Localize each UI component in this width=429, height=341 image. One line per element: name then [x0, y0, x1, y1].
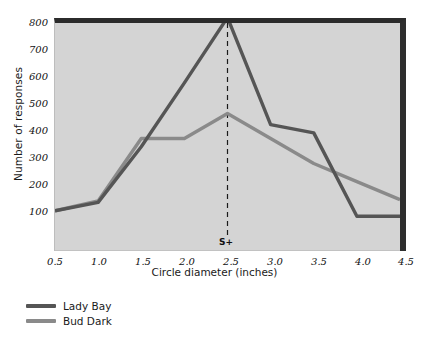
y-axis-tick-label: 300 [8, 152, 48, 163]
y-axis-tick-label: 100 [8, 206, 48, 217]
y-axis-tick-label: 800 [8, 17, 48, 28]
plot-area [54, 18, 406, 251]
legend-label: Bud Dark [63, 315, 112, 327]
y-axis-tick-label: 200 [8, 179, 48, 190]
y-axis-tick-label: 500 [8, 98, 48, 109]
legend-item-lady-bay: Lady Bay [26, 298, 112, 313]
y-axis-tick-label: 700 [8, 44, 48, 55]
y-axis-tick-label: 400 [8, 125, 48, 136]
y-axis-tick-label: 600 [8, 71, 48, 82]
series-canvas [55, 23, 400, 251]
legend-swatch-icon [26, 304, 56, 308]
legend-item-bud-dark: Bud Dark [26, 313, 112, 328]
chart-figure: Number of responses 800 700 600 500 400 … [0, 0, 429, 341]
legend: Lady Bay Bud Dark [26, 298, 112, 328]
annotation-label-s-plus: S+ [206, 237, 246, 247]
x-axis-title: Circle diameter (inches) [0, 266, 429, 278]
legend-label: Lady Bay [63, 300, 111, 312]
legend-swatch-icon [26, 319, 56, 323]
